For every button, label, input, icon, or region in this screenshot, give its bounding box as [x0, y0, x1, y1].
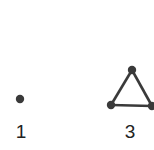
node [148, 102, 154, 110]
node [16, 95, 24, 103]
edge [111, 105, 152, 106]
node [128, 66, 136, 74]
graph-1: 1 [16, 95, 27, 142]
graph-label-3: 3 [125, 121, 136, 142]
node [107, 101, 115, 109]
graph-3-triangle: 3 [107, 66, 154, 142]
edge [132, 70, 152, 106]
graph-label-1: 1 [16, 121, 27, 142]
edge [111, 70, 132, 105]
diagram-canvas: 1 3 [0, 0, 154, 150]
